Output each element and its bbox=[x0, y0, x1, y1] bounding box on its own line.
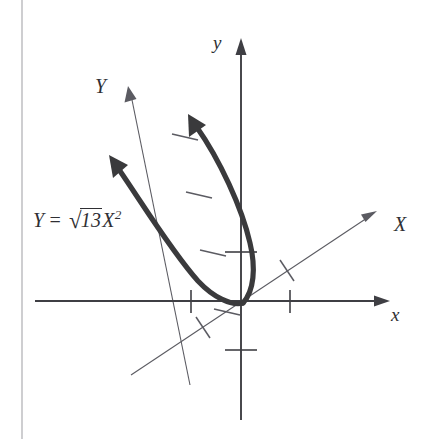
rotated-y-axis-label: Y bbox=[95, 76, 106, 96]
parabola-branch-right bbox=[196, 126, 253, 303]
x-axis-label: x bbox=[391, 305, 399, 324]
rotated-y-axis-tick-2 bbox=[186, 192, 212, 198]
radical-expression: √13 bbox=[67, 208, 102, 232]
rotated-y-axis-arrowhead bbox=[125, 86, 137, 103]
rotated-y-axis-tick-3 bbox=[172, 134, 198, 140]
rotated-y-axis-line bbox=[131, 95, 190, 385]
y-axis-group bbox=[225, 38, 257, 420]
y-axis-label: y bbox=[213, 33, 221, 52]
equation-lhs: Y bbox=[33, 209, 44, 231]
parabola-curve-group bbox=[109, 114, 253, 304]
x-axis-arrowhead bbox=[374, 296, 390, 307]
parabola-branch-left bbox=[120, 171, 243, 304]
rotated-x-axis-tick-negative bbox=[196, 317, 210, 338]
rotated-y-axis-tick-4 bbox=[214, 309, 240, 315]
equation-exponent: 2 bbox=[115, 207, 122, 222]
equation-annotation: Y=√13X2 bbox=[33, 208, 121, 232]
figure-container: y x Y X Y=√13X2 bbox=[0, 0, 422, 439]
rotated-y-axis-tick-1 bbox=[200, 250, 226, 256]
rotated-x-axis-tick-positive bbox=[280, 260, 294, 281]
radicand-value: 13 bbox=[80, 208, 102, 230]
equation-equals-sign: = bbox=[48, 209, 62, 231]
rotated-x-axis-label: X bbox=[394, 214, 406, 234]
equation-variable: X bbox=[102, 209, 114, 231]
rotated-y-axis-group bbox=[125, 86, 241, 385]
y-axis-arrowhead bbox=[236, 38, 247, 55]
